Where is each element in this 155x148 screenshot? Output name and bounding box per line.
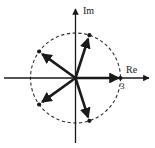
vector-72deg [76,33,92,78]
root-point-0deg [118,76,122,80]
root-point-144deg [37,49,41,53]
real-axis-label: Re [126,65,137,75]
vector-288deg [76,78,92,123]
vector-216deg-shaft [42,78,75,102]
imaginary-axis-label: Im [83,6,94,16]
vector-72deg-shaft [76,39,89,78]
root-point-72deg [87,33,91,37]
complex-plane-figure: Im Re 3 [0,0,155,148]
vector-144deg-shaft [42,54,75,78]
vector-288deg-shaft [76,78,89,117]
radius-value-label: 3 [120,82,125,91]
vector-144deg [37,49,76,78]
vector-216deg [37,78,76,107]
root-point-216deg [37,102,41,106]
vector-0deg [76,76,123,80]
root-point-288deg [87,119,91,123]
